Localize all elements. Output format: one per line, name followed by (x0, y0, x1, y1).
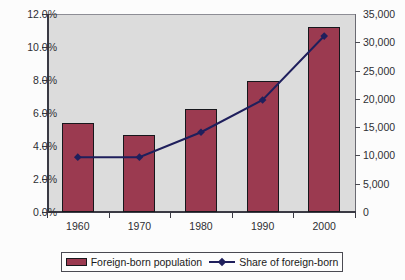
y-axis-left-tick-label: 12.0% (13, 9, 57, 20)
y-axis-right-tick (355, 99, 360, 100)
x-axis-tick-label: 1960 (51, 221, 105, 232)
x-axis-tick-label: 1990 (236, 221, 290, 232)
y-axis-left-tick-label: 8.0% (13, 75, 57, 86)
y-axis-right-tick (355, 42, 360, 43)
x-axis-tick (109, 213, 110, 218)
y-axis-right-tick-label: 10,000 (363, 150, 403, 161)
y-axis-right-tick (355, 155, 360, 156)
y-axis-right-tick-label: 30,000 (363, 37, 403, 48)
bar (247, 81, 279, 212)
y-axis-right-tick-label: 15,000 (363, 122, 403, 133)
chart-legend: Foreign-born population Share of foreign… (61, 252, 343, 272)
legend-entry-line: Share of foreign-born (209, 257, 338, 268)
y-axis-right-tick-label: 20,000 (363, 94, 403, 105)
x-axis-tick (47, 213, 48, 218)
y-axis-right-tick-label: 35,000 (363, 9, 403, 20)
legend-label-line: Share of foreign-born (239, 257, 338, 268)
y-axis-left-tick-label: 2.0% (13, 174, 57, 185)
line-diamond-icon (209, 258, 235, 267)
y-axis-right-tick (355, 184, 360, 185)
y-axis-right-tick-label: 25,000 (363, 66, 403, 77)
y-axis-left-tick-label: 10.0% (13, 42, 57, 53)
y-axis-left-tick-label: 4.0% (13, 141, 57, 152)
x-axis-tick-label: 1970 (112, 221, 166, 232)
y-axis-right-tick-label: 5,000 (363, 179, 403, 190)
legend-label-bar: Foreign-born population (91, 257, 203, 268)
bar (308, 27, 340, 212)
y-axis-right-tick (355, 71, 360, 72)
x-axis-tick (355, 213, 356, 218)
bar-swatch-icon (66, 258, 87, 266)
legend-entry-bar: Foreign-born population (66, 257, 203, 268)
bar (185, 109, 217, 212)
x-axis-tick-label: 2000 (297, 221, 351, 232)
y-axis-left-tick-label: 0.0% (13, 207, 57, 218)
x-axis-tick-label: 1980 (174, 221, 228, 232)
y-axis-right-tick (355, 127, 360, 128)
plot-border-top (47, 14, 356, 15)
chart-container: 0.0%2.0%4.0%6.0%8.0%10.0%12.0% 05,00010,… (0, 0, 405, 280)
x-axis-tick (293, 213, 294, 218)
bar (123, 135, 155, 212)
y-axis-right-tick-label: 0 (363, 207, 403, 218)
x-axis-tick (170, 213, 171, 218)
x-axis-tick (232, 213, 233, 218)
bar (62, 123, 94, 212)
y-axis-left-tick-label: 6.0% (13, 108, 57, 119)
